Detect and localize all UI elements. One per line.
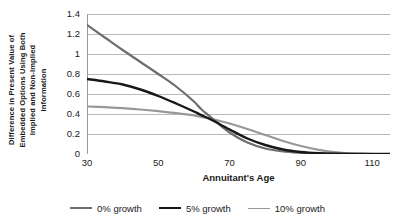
legend-label: 0% growth [97, 203, 142, 214]
plot-area [87, 14, 390, 154]
legend-label: 10% growth [275, 203, 325, 214]
y-axis-tick-label: 1.4 [67, 9, 80, 19]
y-axis-tick-label: 0.2 [67, 129, 80, 139]
x-axis-tick-label: 110 [365, 157, 380, 168]
y-axis-tick-label: 0.6 [67, 89, 80, 99]
x-axis-tick-label: 70 [224, 157, 235, 168]
y-axis-tick-label: 1 [75, 49, 80, 59]
series-line [87, 79, 390, 154]
legend-item[interactable]: 5% growth [159, 203, 231, 214]
y-axis-title: Difference in Present Value of Embedded … [0, 0, 56, 180]
legend-line-swatch [70, 207, 92, 209]
y-axis-title-line-3: Implied and Non-Implied [28, 33, 39, 148]
y-axis-title-text: Difference in Present Value of Embedded … [7, 33, 49, 148]
legend-item[interactable]: 0% growth [70, 203, 142, 214]
legend-label: 5% growth [186, 203, 231, 214]
x-axis-tick-label: 90 [296, 157, 307, 168]
legend-item[interactable]: 10% growth [248, 203, 325, 214]
y-axis-title-line-1: Difference in Present Value of [7, 33, 18, 148]
x-axis-tick-labels: 30507090110 [87, 157, 390, 171]
legend-line-swatch [248, 208, 270, 209]
x-axis-tick-label: 50 [153, 157, 164, 168]
y-axis-tick-label: 0.8 [67, 69, 80, 79]
x-axis-tick-label: 30 [82, 157, 93, 168]
x-axis-title: Annuitant's Age [87, 172, 390, 184]
y-axis-tick-label: 1.2 [67, 29, 80, 39]
y-axis-tick-label: 0.4 [67, 109, 80, 119]
y-axis-title-line-2: Embedded Options Using Both [18, 33, 29, 148]
plot-svg [87, 14, 390, 154]
y-axis-tick-label: 0 [75, 149, 80, 159]
legend-line-swatch [159, 207, 181, 209]
chart-container: Difference in Present Value of Embedded … [0, 0, 395, 224]
y-axis-title-line-4: Information [39, 33, 50, 148]
y-axis-tick-labels: 00.20.40.60.811.21.4 [56, 8, 84, 160]
chart-legend: 0% growth5% growth10% growth [0, 198, 395, 218]
